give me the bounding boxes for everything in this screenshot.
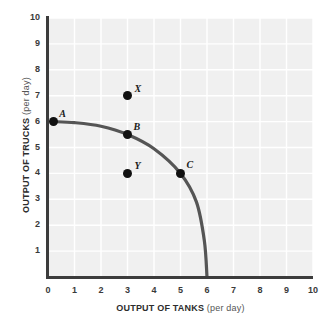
x-tick-3: 3 xyxy=(120,285,136,295)
x-tick-7: 7 xyxy=(226,285,242,295)
data-point-b xyxy=(123,130,132,139)
data-point-y xyxy=(123,169,132,178)
x-tick-2: 2 xyxy=(93,285,109,295)
y-tick-10: 10 xyxy=(24,12,40,22)
x-tick-8: 8 xyxy=(252,285,268,295)
x-axis-title: OUTPUT OF TANKS (per day) xyxy=(48,303,313,313)
y-axis-title-text: OUTPUT OF TRUCKS xyxy=(21,118,31,213)
ppf-curve xyxy=(48,18,313,277)
x-tick-4: 4 xyxy=(146,285,162,295)
y-axis-line xyxy=(46,16,49,279)
data-point-label-b: B xyxy=(134,121,141,132)
x-axis-title-unit: (per day) xyxy=(207,303,245,313)
x-tick-0: 0 xyxy=(40,285,56,295)
x-axis-line xyxy=(46,276,313,279)
x-tick-6: 6 xyxy=(199,285,215,295)
data-point-c xyxy=(176,169,185,178)
data-point-label-c: C xyxy=(187,159,194,170)
data-point-label-a: A xyxy=(59,108,66,119)
data-point-a xyxy=(49,117,58,126)
x-tick-5: 5 xyxy=(173,285,189,295)
x-tick-1: 1 xyxy=(67,285,83,295)
x-tick-10: 10 xyxy=(305,285,321,295)
y-axis-title: OUTPUT OF TRUCKS (per day) xyxy=(21,35,31,255)
ppf-chart-figure: 12345678910 012345678910 ABCXY OUTPUT OF… xyxy=(0,0,333,325)
plot-area xyxy=(48,18,313,277)
data-point-label-x: X xyxy=(135,83,142,94)
data-point-label-y: Y xyxy=(135,160,141,171)
x-tick-9: 9 xyxy=(279,285,295,295)
y-axis-title-unit: (per day) xyxy=(21,77,31,115)
x-axis-title-text: OUTPUT OF TANKS xyxy=(116,303,204,313)
